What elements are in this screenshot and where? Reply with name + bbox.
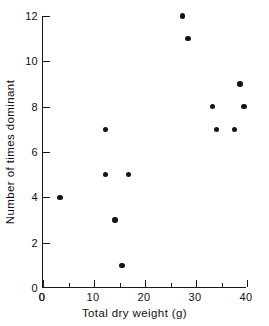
x-axis-tick-40 bbox=[247, 280, 248, 287]
scatter-plot-figure: Number of times dominant Total dry weigh… bbox=[0, 0, 269, 326]
x-axis-minor-tick-25 bbox=[171, 283, 172, 287]
y-axis-tick-8 bbox=[43, 107, 50, 108]
plot-axes-frame bbox=[42, 16, 246, 288]
data-point bbox=[185, 36, 190, 41]
x-axis-minor-tick-5 bbox=[69, 283, 70, 287]
data-point bbox=[241, 104, 246, 109]
x-axis-tick-20 bbox=[145, 280, 146, 287]
y-axis-tick-10 bbox=[43, 61, 50, 62]
y-axis-tick-label-6: 6 bbox=[32, 146, 38, 158]
y-axis-tick-12 bbox=[43, 16, 50, 17]
data-point bbox=[214, 127, 219, 132]
x-axis-tick-30 bbox=[196, 280, 197, 287]
y-axis-tick-6 bbox=[43, 152, 50, 153]
y-axis-tick-4 bbox=[43, 197, 50, 198]
data-point bbox=[57, 195, 62, 200]
x-axis-label: Total dry weight (g) bbox=[0, 307, 269, 319]
data-point bbox=[112, 217, 117, 222]
y-axis-tick-label-10: 10 bbox=[25, 55, 38, 67]
data-point bbox=[103, 127, 108, 132]
y-axis-tick-label-12: 12 bbox=[25, 10, 38, 22]
x-axis-minor-tick-35 bbox=[222, 283, 223, 287]
y-axis-tick-label-8: 8 bbox=[32, 101, 38, 113]
x-axis-tick-label-40: 40 bbox=[240, 291, 253, 303]
data-point bbox=[237, 81, 242, 86]
y-axis-label: Number of times dominant bbox=[4, 80, 16, 224]
y-axis-tick-label-0: 0 bbox=[32, 282, 38, 294]
x-axis-tick-label-10: 10 bbox=[87, 291, 100, 303]
y-axis-tick-label-4: 4 bbox=[32, 191, 38, 203]
x-axis-tick-label-20: 20 bbox=[138, 291, 151, 303]
x-axis-tick-label-30: 30 bbox=[189, 291, 202, 303]
y-axis-tick-label-2: 2 bbox=[32, 237, 38, 249]
x-axis-minor-tick-15 bbox=[120, 283, 121, 287]
y-axis-tick-2 bbox=[43, 243, 50, 244]
x-axis-tick-label-0-origin: 0 bbox=[39, 291, 45, 303]
data-point bbox=[119, 263, 124, 268]
y-axis-label-container: Number of times dominant bbox=[2, 16, 18, 288]
x-axis-tick-10 bbox=[94, 280, 95, 287]
x-axis-tick-0 bbox=[43, 280, 44, 287]
